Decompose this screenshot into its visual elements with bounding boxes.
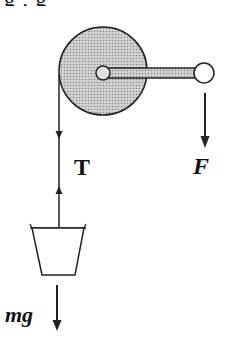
crank-arm	[103, 68, 197, 78]
weight-label: mg	[5, 302, 33, 328]
tension-label: T	[74, 154, 90, 181]
force-arrow-icon	[201, 136, 210, 148]
tension-up-arrow-icon	[56, 186, 63, 194]
pulley-hub	[96, 66, 110, 80]
weight-arrow-icon	[53, 320, 62, 331]
handle-knob	[194, 63, 214, 83]
bucket	[32, 228, 84, 275]
force-label: F	[193, 153, 209, 180]
tension-down-arrow-icon	[56, 131, 63, 139]
